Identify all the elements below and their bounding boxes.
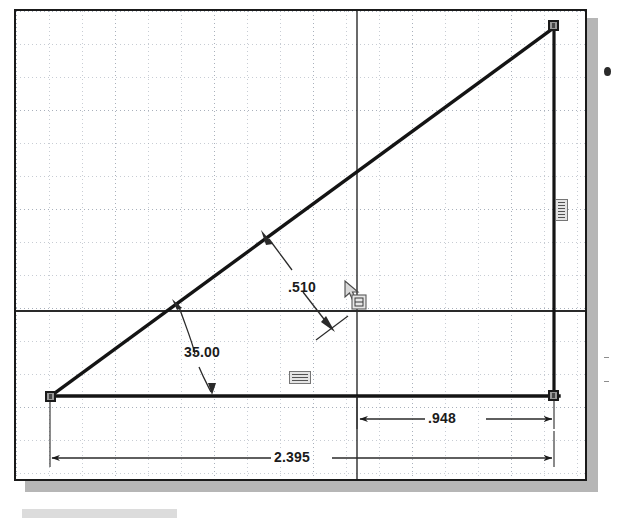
hypotenuse-line	[52, 27, 555, 395]
bottom-status-bar	[22, 509, 177, 518]
length-dimension-510-label[interactable]: .510	[288, 279, 316, 295]
relation-icon-vertical[interactable]	[555, 199, 568, 221]
edge-tick-upper	[604, 357, 609, 358]
origin-point[interactable]	[45, 391, 56, 402]
relation-icon-horizontal-glyph	[292, 374, 308, 381]
angle-dimension-label[interactable]: 35.00	[184, 344, 220, 360]
dim510-witness	[316, 316, 348, 340]
edge-bullet	[604, 67, 611, 76]
edge-tick-lower	[604, 381, 609, 382]
relation-icon-vertical-glyph	[558, 202, 565, 218]
dim510-leader-lower	[303, 292, 327, 323]
sketch-canvas-root: 35.00 .510 .948 2.395	[0, 0, 621, 526]
length-dimension-948-label[interactable]: .948	[425, 410, 459, 426]
angle-dimension-leader-lower	[199, 367, 211, 392]
relation-icon-horizontal[interactable]	[289, 371, 311, 384]
sketch-geometry-layer	[16, 11, 585, 479]
bottom-right-point[interactable]	[548, 390, 559, 401]
sketch-viewport[interactable]: 35.00 .510 .948 2.395	[14, 9, 587, 481]
top-right-point[interactable]	[548, 20, 559, 31]
smart-dimension-cursor	[342, 279, 372, 313]
length-dimension-2395-label[interactable]: 2.395	[271, 449, 313, 465]
